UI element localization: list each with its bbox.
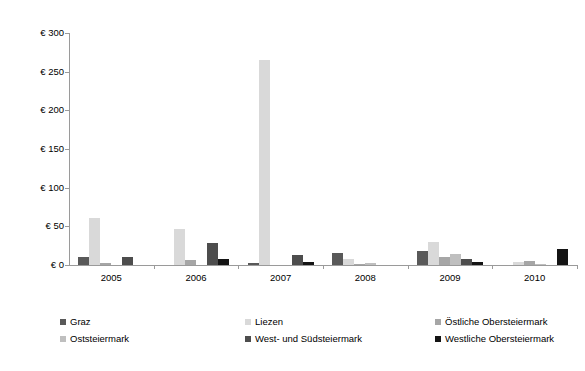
x-axis-tick-label: 2010 [505, 272, 565, 283]
y-axis-tick-label: € 100 [18, 183, 64, 193]
legend-swatch-icon [60, 336, 66, 342]
x-axis-tick-label: 2008 [335, 272, 395, 283]
bar [524, 261, 535, 265]
x-axis-tick-mark [492, 265, 493, 269]
legend-swatch-icon [245, 319, 251, 325]
x-axis-tick-label: 2009 [420, 272, 480, 283]
y-axis-tick-label: € 250 [18, 67, 64, 77]
bar-group [332, 33, 398, 265]
x-axis-tick-mark [323, 265, 324, 269]
bar-group [502, 33, 568, 265]
y-axis-tick-label: € 300 [18, 28, 64, 38]
y-axis: € 0€ 50€ 100€ 150€ 200€ 250€ 300 [18, 26, 64, 272]
legend-swatch-icon [245, 336, 251, 342]
y-axis-tick-mark [65, 33, 69, 34]
legend-item[interactable]: Liezen [245, 316, 283, 327]
legend-item[interactable]: Oststeiermark [60, 333, 129, 344]
y-axis-tick-mark [65, 110, 69, 111]
bar [259, 60, 270, 265]
legend-item[interactable]: Westliche Obersteiermark [435, 333, 554, 344]
y-axis-tick-label: € 200 [18, 105, 64, 115]
y-axis-tick-mark [65, 149, 69, 150]
y-axis-tick-label: € 50 [18, 221, 64, 231]
legend-label: Oststeiermark [70, 333, 129, 344]
legend-label: Graz [70, 316, 91, 327]
bar [354, 264, 365, 265]
bar-chart: € 0€ 50€ 100€ 150€ 200€ 250€ 300 2005200… [0, 0, 585, 371]
bar [332, 253, 343, 265]
bar [461, 259, 472, 265]
bar [513, 262, 524, 265]
bar [207, 243, 218, 265]
legend-label: West- und Südsteiermark [255, 333, 362, 344]
bar [185, 260, 196, 265]
bar [343, 259, 354, 265]
chart-legend: GrazLiezenÖstliche ObersteiermarkOststei… [60, 316, 560, 356]
y-axis-tick-mark [65, 72, 69, 73]
y-axis-tick-label: € 0 [18, 260, 64, 270]
legend-label: Liezen [255, 316, 283, 327]
bar [100, 263, 111, 265]
x-axis-tick-label: 2005 [81, 272, 141, 283]
legend-label: Westliche Obersteiermark [445, 333, 554, 344]
bar [218, 259, 229, 265]
y-axis-tick-mark [65, 188, 69, 189]
y-axis-tick-mark [65, 226, 69, 227]
bar [89, 218, 100, 265]
bar [122, 257, 133, 266]
bar [248, 263, 259, 265]
bar-group [417, 33, 483, 265]
bar-group [163, 33, 229, 265]
bar [303, 262, 314, 265]
bar [557, 249, 568, 265]
bar [174, 229, 185, 265]
bar [535, 264, 546, 265]
bar [292, 255, 303, 265]
x-axis-tick-mark [238, 265, 239, 269]
bar-group [78, 33, 144, 265]
x-axis-tick-label: 2006 [166, 272, 226, 283]
legend-swatch-icon [435, 319, 441, 325]
x-axis-tick-mark [154, 265, 155, 269]
legend-item[interactable]: West- und Südsteiermark [245, 333, 362, 344]
plot-area: € 0€ 50€ 100€ 150€ 200€ 250€ 300 2005200… [0, 0, 585, 300]
bar [365, 263, 376, 265]
y-axis-tick-label: € 150 [18, 144, 64, 154]
x-axis-tick-label: 2007 [251, 272, 311, 283]
bar [472, 262, 483, 265]
x-axis-tick-mark [408, 265, 409, 269]
legend-swatch-icon [435, 336, 441, 342]
bar [78, 257, 89, 266]
legend-swatch-icon [60, 319, 66, 325]
bar [439, 257, 450, 265]
legend-item[interactable]: Graz [60, 316, 91, 327]
bar [450, 254, 461, 265]
bars-layer [69, 33, 577, 265]
legend-label: Östliche Obersteiermark [445, 316, 547, 327]
legend-item[interactable]: Östliche Obersteiermark [435, 316, 547, 327]
y-axis-tick-mark [65, 265, 69, 266]
bar-group [248, 33, 314, 265]
bar [417, 251, 428, 265]
bar [428, 242, 439, 265]
x-axis-tick-mark [577, 265, 578, 269]
